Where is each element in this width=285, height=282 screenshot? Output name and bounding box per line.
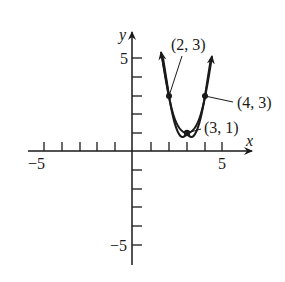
graph-canvas: −5 5 5 −5 x y (2, 3) (4, 3) (3, 1) [0, 0, 285, 282]
leader-2-3 [169, 56, 182, 96]
point-4-3 [202, 93, 208, 99]
label-3-1: (3, 1) [204, 119, 239, 137]
x-tick-label-5: 5 [218, 155, 226, 172]
y-axis-label: y [117, 26, 127, 44]
label-2-3: (2, 3) [171, 36, 206, 54]
label-4-3: (4, 3) [237, 94, 272, 112]
x-axis-label: x [245, 132, 253, 149]
point-2-3 [166, 93, 172, 99]
leader-4-3 [205, 96, 233, 102]
point-vertex-3-1 [184, 130, 190, 136]
x-tick-label-neg5: −5 [28, 155, 45, 172]
left-arrow [161, 52, 169, 96]
y-tick-label-5: 5 [120, 50, 128, 67]
y-tick-label-neg5: −5 [110, 237, 127, 254]
x-ticks [44, 142, 222, 151]
